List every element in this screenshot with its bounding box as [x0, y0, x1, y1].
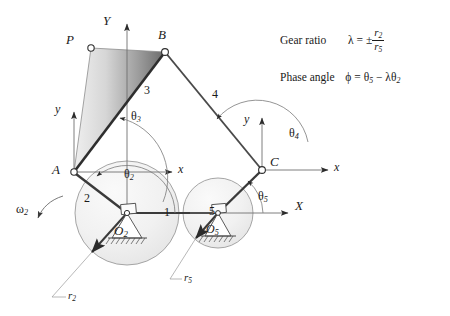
link-4-coupler [165, 52, 262, 170]
radius-label-r2-sub: 2 [72, 294, 76, 303]
link-label-1: 1 [164, 206, 170, 218]
link-label-2: 2 [84, 192, 90, 204]
omega-2-sub: 2 [24, 208, 28, 217]
axis-label-y-at-C: y [244, 113, 249, 125]
joint-B [162, 49, 169, 56]
phase-angle-label: Phase angle [280, 71, 335, 83]
phase-angle-formula: Phase angle ϕ = θ5 − λθ2 [280, 71, 400, 85]
joint-A [71, 169, 77, 175]
phase-angle-theta2-sub: 2 [396, 76, 400, 85]
point-label-O5-sub: 5 [215, 228, 219, 237]
point-label-P: P [66, 33, 74, 46]
gear-ratio-denominator: r5 [372, 40, 384, 54]
angle-label-theta3: θ3 [131, 110, 141, 124]
point-label-O2-sub: 2 [123, 229, 127, 239]
omega-2-symbol: ω [16, 202, 24, 216]
gear-ratio-numerator-sub: 2 [378, 31, 382, 40]
omega-2-arrow [38, 196, 63, 218]
phase-angle-equals: = [354, 71, 361, 83]
axis-label-x-at-C: x [334, 161, 339, 173]
angle-label-theta3-sub: 3 [137, 115, 141, 124]
angle-label-theta4: θ4 [289, 127, 299, 141]
radius-label-r2: r2 [68, 290, 76, 303]
phase-angle-theta5-sub: 5 [369, 76, 373, 85]
phase-angle-phi: ϕ [345, 71, 351, 83]
axis-label-X: X [295, 199, 303, 212]
phase-angle-minus: − [376, 71, 383, 83]
radius-label-r5: r5 [184, 272, 192, 285]
point-label-O5-letter: O [206, 222, 215, 236]
axis-label-y-at-A: y [55, 103, 60, 115]
axis-label-x-at-A: x [178, 163, 183, 175]
link-label-4: 4 [212, 88, 218, 100]
link-label-5: 5 [209, 205, 215, 217]
omega-2-label: ω2 [16, 203, 28, 217]
angle-label-theta4-sub: 4 [295, 132, 299, 141]
joint-P [88, 45, 94, 51]
point-label-O2-letter: O [114, 223, 123, 238]
angle-label-theta2: θ2 [124, 168, 134, 182]
gear-ratio-equals: = [357, 34, 364, 46]
gear-ratio-label: Gear ratio [280, 34, 326, 46]
gear-ratio-fraction: r2r5 [372, 27, 384, 54]
point-label-A: A [52, 163, 60, 176]
gear-ratio-denominator-sub: 5 [378, 45, 382, 54]
point-label-O5: O5 [206, 223, 219, 237]
radius-label-r5-sub: 5 [188, 276, 192, 285]
angle-label-theta2-sub: 2 [130, 173, 134, 182]
gear-ratio-formula: Gear ratio λ = ±r2r5 [280, 28, 384, 55]
axis-label-Y: Y [103, 14, 110, 27]
gear-ratio-lambda: λ [348, 34, 354, 46]
point-label-C: C [270, 155, 279, 168]
kinematic-diagram-figure: Y X y x y x P B A C O2 O5 1 2 3 4 5 θ2 θ… [0, 0, 450, 316]
angle-label-theta5: θ5 [258, 190, 268, 204]
angle-label-theta5-sub: 5 [264, 195, 268, 204]
point-label-O2: O2 [114, 224, 128, 239]
gear-ratio-numerator: r2 [372, 27, 384, 40]
joint-C [259, 167, 266, 174]
point-label-B: B [158, 28, 166, 41]
link-label-3: 3 [144, 84, 150, 96]
